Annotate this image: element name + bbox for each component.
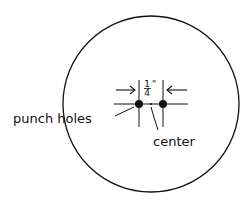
spacing-unit: " [152,79,156,89]
left-dimension-arrow-icon [116,86,135,94]
center-leader-line [151,107,158,130]
punch-hole-right [159,100,167,108]
punch-holes-leader-line [115,107,134,116]
punch-holes-label: punch holes [13,111,92,126]
punch-hole-diagram: 1 4 " punch holes center [0,0,250,204]
center-point [150,103,152,105]
right-dimension-arrow-icon [167,86,187,94]
punch-hole-left [135,100,143,108]
center-label: center [153,134,195,149]
spacing-denominator: 4 [144,88,150,98]
